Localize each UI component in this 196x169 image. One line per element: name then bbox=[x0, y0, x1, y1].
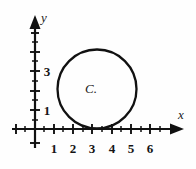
x-tick-label-1: 1 bbox=[51, 141, 58, 156]
figure-container: y x C. 1 2 3 4 5 6 1 3 bbox=[0, 0, 196, 169]
x-tick-label-4: 4 bbox=[109, 141, 116, 156]
x-axis-label: x bbox=[177, 107, 184, 122]
x-tick-label-5: 5 bbox=[128, 141, 135, 156]
coordinate-plane-figure: y x C. 1 2 3 4 5 6 1 3 bbox=[0, 0, 196, 169]
y-tick-label-3: 3 bbox=[44, 64, 51, 79]
curve-c-label: C. bbox=[85, 81, 97, 96]
y-tick-label-1: 1 bbox=[44, 103, 51, 118]
x-tick-label-3: 3 bbox=[89, 141, 96, 156]
x-tick-label-2: 2 bbox=[70, 141, 77, 156]
x-tick-label-6: 6 bbox=[147, 141, 154, 156]
y-axis-label: y bbox=[39, 10, 47, 25]
figure-background bbox=[0, 0, 196, 169]
